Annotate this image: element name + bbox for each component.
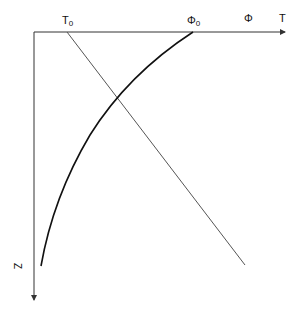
z-axis-label: Z bbox=[12, 263, 23, 269]
diagram-canvas: T0 Φ0 Φ T Z bbox=[0, 0, 298, 311]
phi-axis-label: Φ bbox=[244, 12, 253, 24]
t-axis-label: T bbox=[279, 12, 286, 24]
phi-curve bbox=[41, 32, 193, 266]
t0-label: T0 bbox=[62, 14, 74, 28]
phi0-label: Φ0 bbox=[187, 14, 201, 28]
t-line bbox=[67, 32, 245, 265]
